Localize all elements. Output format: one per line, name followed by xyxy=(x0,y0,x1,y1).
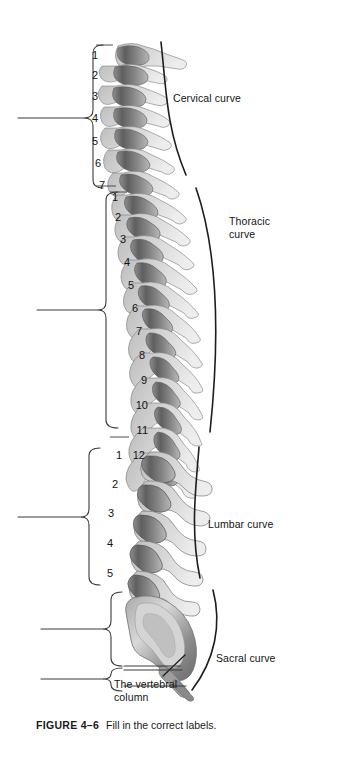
cervical-number-2: 2 xyxy=(84,70,98,81)
cervical-curve-label: Cervical curve xyxy=(173,92,241,105)
lumbar-number-4: 4 xyxy=(99,538,113,549)
thoracic-number-11: 11 xyxy=(129,425,148,436)
thoracic-number-3: 3 xyxy=(112,234,126,245)
lumbar-number-5: 5 xyxy=(99,568,113,579)
thoracic-curve-arc xyxy=(196,188,216,432)
thoracic-bracket-group xyxy=(37,192,118,428)
sacral-curve-label: Sacral curve xyxy=(216,652,276,665)
thoracic-number-5: 5 xyxy=(120,280,134,291)
lumbar-number-2: 2 xyxy=(104,479,118,490)
cervical-number-4: 4 xyxy=(84,113,98,124)
cervical-vertebrae-group xyxy=(98,44,186,200)
thoracic-number-8: 8 xyxy=(131,350,145,361)
thoracic-number-9: 9 xyxy=(133,375,147,386)
cervical-number-6: 6 xyxy=(87,158,101,169)
thoracic-number-12: 12 xyxy=(126,450,145,461)
thoracic-number-10: 10 xyxy=(129,400,148,411)
cervical-number-5: 5 xyxy=(84,136,98,147)
thoracic-number-2: 2 xyxy=(107,212,121,223)
thoracic-number-7: 7 xyxy=(128,326,142,337)
figure-number: FIGURE 4–6 xyxy=(36,719,99,731)
thoracic-curve-label: Thoracic curve xyxy=(229,215,270,241)
thoracic-number-6: 6 xyxy=(124,303,138,314)
lumbar-curve-label: Lumbar curve xyxy=(208,518,273,531)
cervical-number-3: 3 xyxy=(84,91,98,102)
sacrum-bracket-group xyxy=(41,592,122,666)
sacrum-bracket xyxy=(103,592,122,666)
figure-caption-text: Fill in the correct labels. xyxy=(106,719,216,731)
lumbar-bracket xyxy=(81,448,100,585)
lumbar-number-3: 3 xyxy=(100,508,114,519)
cervical-number-1: 1 xyxy=(84,50,98,61)
thoracic-number-4: 4 xyxy=(116,257,130,268)
figure-caption: FIGURE 4–6Fill in the correct labels. xyxy=(36,718,216,732)
vertebral-column-figure: 1 2 3 4 5 6 7 1 2 3 4 5 6 7 8 9 10 11 12… xyxy=(0,0,342,710)
spine-illustration xyxy=(0,0,342,710)
cervical-number-7: 7 xyxy=(91,180,105,191)
thoracic-number-1: 1 xyxy=(104,192,118,203)
figure-page: 1 2 3 4 5 6 7 1 2 3 4 5 6 7 8 9 10 11 12… xyxy=(0,0,342,770)
vertebral-column-label: The vertebral column xyxy=(114,678,177,704)
lumbar-number-1: 1 xyxy=(108,450,122,461)
lumbar-bracket-group xyxy=(18,448,100,585)
